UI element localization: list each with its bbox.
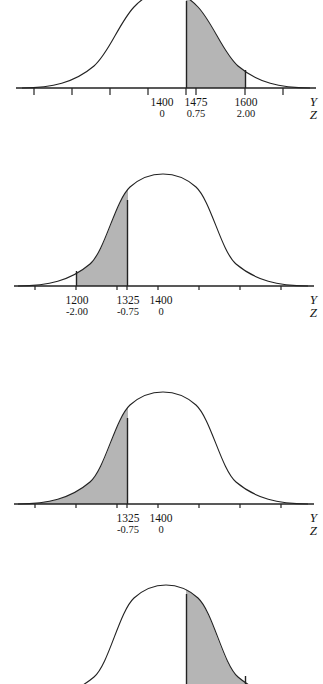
- shaded-region-figure-1: [26, 0, 306, 88]
- tick-label-z--200-figure-2: -2.00: [66, 306, 88, 318]
- tick-label-y-1400-figure-3: 1400: [150, 512, 173, 524]
- figure-3-plot: [0, 380, 323, 508]
- normal-curve-figure-2: 1200 1325 1400 -2.00 -0.75 0 Y Z: [0, 168, 323, 290]
- normal-curve-figure-1: 1400 1475 1600 0 0.75 2.00 Y Z: [0, 0, 323, 110]
- tick-label-z-0-figure-3: 0: [158, 524, 163, 536]
- tick-label-y-1600-figure-1: 1600: [235, 96, 258, 108]
- axis-labels-figure-3: 1325 1400 -0.75 0 Y Z: [0, 512, 323, 542]
- axis-name-z-figure-2: Z: [310, 307, 317, 319]
- shaded-region-figure-4: [26, 584, 306, 684]
- tick-label-z-200-figure-1: 2.00: [237, 108, 255, 120]
- x-axis-ticks-figure-1: [34, 88, 283, 95]
- figure-2-plot: [0, 168, 323, 290]
- bell-curve-figure-2: [18, 174, 308, 286]
- tick-label-z-0-figure-2: 0: [158, 306, 163, 318]
- normal-curve-figure-4: [0, 563, 323, 684]
- figure-1-plot: [0, 0, 323, 110]
- tick-label-y-1325-figure-2: 1325: [117, 294, 140, 306]
- tick-label-z-0-figure-1: 0: [159, 108, 164, 120]
- tick-label-y-1325-figure-3: 1325: [117, 512, 140, 524]
- tick-label-y-1400-figure-2: 1400: [150, 294, 173, 306]
- tick-label-z--075-figure-3: -0.75: [117, 524, 139, 536]
- axis-labels-figure-2: 1200 1325 1400 -2.00 -0.75 0 Y Z: [0, 294, 323, 324]
- shaded-region-figure-3: [22, 391, 304, 504]
- bell-curve-figure-3: [18, 392, 308, 504]
- tick-label-y-1200-figure-2: 1200: [66, 294, 89, 306]
- figure-4-plot: [0, 563, 323, 684]
- bell-curve-figure-1: [22, 0, 310, 88]
- tick-label-y-1475-figure-1: 1475: [185, 96, 208, 108]
- tick-label-z-075-figure-1: 0.75: [187, 108, 205, 120]
- axis-labels-figure-1: 1400 1475 1600 0 0.75 2.00 Y Z: [0, 96, 323, 126]
- normal-curve-figure-3: 1325 1400 -0.75 0 Y Z: [0, 380, 323, 508]
- axis-name-z-figure-3: Z: [310, 525, 317, 537]
- axis-name-z-figure-1: Z: [310, 109, 317, 121]
- shaded-region-figure-2: [22, 173, 304, 286]
- tick-label-z--075-figure-2: -0.75: [117, 306, 139, 318]
- bell-curve-figure-4: [22, 585, 310, 684]
- tick-label-y-1400-figure-1: 1400: [151, 96, 174, 108]
